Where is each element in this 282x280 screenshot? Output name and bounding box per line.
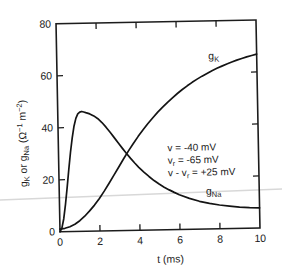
y-tick-label: 20: [42, 173, 54, 185]
conductance-figure: 0246810020406080t (ms)gK or gNa (Ω−1 m−2…: [0, 0, 282, 280]
y-tick-label: 40: [41, 121, 53, 133]
annotation-line-1: v = -40 mV: [167, 141, 216, 153]
gK-curve: [57, 54, 260, 229]
y-tick-label: 60: [40, 70, 52, 82]
scan-artifact-line: [0, 189, 282, 200]
x-tick-label: 2: [97, 235, 103, 247]
x-tick-label: 8: [217, 233, 223, 245]
x-tick-label: 0: [57, 236, 63, 248]
y-tick-label: 80: [39, 18, 51, 30]
gNa-curve-label: gNa: [206, 184, 223, 199]
x-tick-label: 6: [177, 233, 183, 245]
y-axis-title: gK or gNa (Ω−1 m−2): [15, 100, 32, 188]
y-tick-label: 0: [49, 225, 55, 237]
axes-frame: [56, 20, 260, 232]
gK-curve-label: gK: [208, 49, 219, 64]
plot-group: 0246810020406080t (ms)gK or gNa (Ω−1 m−2…: [13, 13, 267, 267]
annotation-line-3: v - vr = +25 mV: [168, 166, 236, 181]
x-tick-label: 4: [137, 234, 143, 246]
conductance-chart-svg: 0246810020406080t (ms)gK or gNa (Ω−1 m−2…: [0, 0, 282, 280]
x-tick-label: 10: [254, 232, 266, 244]
x-axis-title: t (ms): [157, 252, 184, 265]
